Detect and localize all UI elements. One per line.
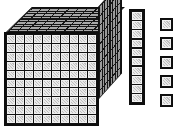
cube-front-unit-square [25,106,33,114]
cube-front-unit-square [34,35,42,43]
cube-front-unit-square [34,97,42,105]
cube-front-unit-square [70,88,78,96]
rod-unit-square [132,21,141,29]
rod-unit-square [132,76,141,84]
unit-cube [160,37,173,50]
cube-front-unit-square [79,71,87,79]
cube-front-unit-square [88,80,96,88]
cube-front-unit-square [43,80,51,88]
cube-right-face [98,7,122,126]
cube-front-unit-square [88,53,96,61]
rod-unit-square [132,58,141,66]
cube-front-unit-square [52,35,60,43]
cube-front-unit-square [34,53,42,61]
cube-front-face-grid [4,32,99,126]
cube-front-unit-square [52,106,60,114]
cube-front-unit-square [70,80,78,88]
cube-front-unit-square [7,53,15,61]
cube-front-unit-square [7,71,15,79]
cube-front-unit-square [88,115,96,123]
cube-front-unit-square [43,115,51,123]
cube-front-unit-square [34,115,42,123]
cube-front-unit-square [16,97,24,105]
cube-front-unit-square [61,115,69,123]
cube-front-unit-square [43,71,51,79]
cube-front-unit-square [88,71,96,79]
cube-front-unit-square [88,44,96,52]
cube-front-unit-square [34,106,42,114]
unit-cube [160,94,173,107]
unit-cube-face [162,96,170,104]
cube-front-unit-square [34,62,42,70]
cube-front-unit-square [7,88,15,96]
cube-front-unit-square [43,35,51,43]
rod-unit-square [132,94,141,102]
cube-front-unit-square [70,53,78,61]
cube-front-unit-square [79,53,87,61]
cube-front-unit-square [61,53,69,61]
cube-front-unit-square [34,88,42,96]
unit-cube [160,56,173,69]
cube-front-unit-square [61,62,69,70]
rod-unit-square [132,49,141,57]
cube-front-unit-square [88,106,96,114]
cube-front-unit-square [70,97,78,105]
unit-cube [160,18,173,31]
cube-front-unit-square [34,80,42,88]
cube-front-unit-square [79,44,87,52]
cube-front-unit-square [52,53,60,61]
cube-front-unit-square [70,35,78,43]
cube-front-unit-square [70,44,78,52]
cube-front-unit-square [70,106,78,114]
cube-front-unit-square [70,115,78,123]
cube-front-unit-square [88,62,96,70]
rod-unit-square [132,30,141,38]
cube-front-unit-square [79,62,87,70]
cube-right-face-grid [98,0,122,100]
rod-unit-square [132,67,141,75]
cube-front-unit-square [16,115,24,123]
cube-front-unit-square [7,80,15,88]
cube-front-unit-square [61,44,69,52]
cube-front-unit-square [79,97,87,105]
cube-front-unit-square [43,97,51,105]
cube-front-unit-square [79,106,87,114]
cube-front-unit-square [52,88,60,96]
cube-front-unit-square [25,53,33,61]
cube-front-unit-square [25,80,33,88]
cube-front-unit-square [16,35,24,43]
cube-front-unit-square [16,53,24,61]
cube-front-unit-square [52,80,60,88]
rod-unit-square [132,12,141,20]
unit-cube [160,75,173,88]
cube-front-unit-square [61,88,69,96]
cube-front-unit-square [7,62,15,70]
cube-front-unit-square [70,62,78,70]
cube-front-unit-square [43,88,51,96]
cube-front-unit-square [43,106,51,114]
unit-cubes-group [160,18,180,108]
unit-cube-face [162,77,170,85]
cube-front-unit-square [79,115,87,123]
cube-front-unit-square [7,97,15,105]
cube-front-unit-square [88,88,96,96]
ten-rod-block [129,9,145,105]
cube-front-unit-square [25,115,33,123]
cube-front-unit-square [61,80,69,88]
rod-unit-square [132,85,141,93]
cube-front-unit-square [7,44,15,52]
cube-front-unit-square [61,71,69,79]
cube-front-unit-square [88,97,96,105]
cube-front-unit-square [16,88,24,96]
cube-front-unit-square [52,97,60,105]
cube-front-unit-square [16,62,24,70]
cube-front-unit-square [25,44,33,52]
cube-front-unit-square [88,35,96,43]
cube-front-unit-square [43,44,51,52]
cube-front-unit-square [25,35,33,43]
cube-front-unit-square [34,71,42,79]
cube-front-unit-square [25,88,33,96]
cube-front-unit-square [16,44,24,52]
cube-front-unit-square [7,115,15,123]
cube-front-unit-square [52,62,60,70]
